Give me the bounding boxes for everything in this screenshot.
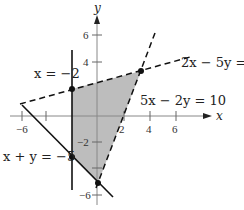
vertex-point bbox=[138, 68, 144, 74]
label-2x-5y: 2x − 5y = − bbox=[181, 55, 244, 70]
x-tick-label: 2 bbox=[119, 123, 125, 135]
label-x-plus-y-neg5: x + y = −5 bbox=[3, 149, 75, 164]
y-tick-label: 6 bbox=[83, 29, 89, 41]
vertex-point bbox=[95, 180, 101, 186]
x-tick-label: 4 bbox=[146, 123, 152, 135]
x-tick-label: −6 bbox=[16, 123, 28, 135]
vertex-point bbox=[69, 86, 75, 92]
x-tick-label: 6 bbox=[172, 123, 178, 135]
y-axis-label: y bbox=[93, 1, 101, 15]
x-axis-label: x bbox=[216, 109, 223, 123]
x-axis-arrow-icon bbox=[203, 113, 212, 119]
y-tick-label: −2 bbox=[77, 136, 89, 148]
y-axis-arrow-icon bbox=[94, 15, 100, 24]
label-5x-2y-10: 5x − 2y = 10 bbox=[140, 93, 226, 108]
y-tick-label: −6 bbox=[79, 189, 91, 201]
y-tick-label: 4 bbox=[83, 56, 89, 68]
label-x-eq-neg2: x = −2 bbox=[34, 66, 80, 81]
linear-inequality-graph: −6 2 4 6 6 4 −2 −6 y x x = −2 2x − 5y = … bbox=[0, 0, 244, 210]
